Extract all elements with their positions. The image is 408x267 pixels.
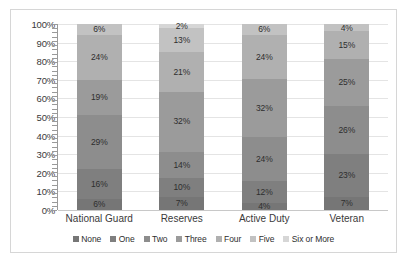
bar-segment[interactable]: 32% [159, 92, 204, 152]
y-axis-minor-tick [52, 45, 57, 46]
bar-segment-label: 6% [93, 25, 105, 34]
chart-legend: NoneOneTwoThreeFourFiveSix or More [11, 234, 396, 244]
bar-segment-label: 6% [93, 200, 105, 209]
bar-segment-label: 10% [173, 183, 190, 192]
bar-segment-label: 24% [256, 53, 273, 62]
bar-segment-label: 14% [173, 161, 190, 170]
legend-swatch-icon [110, 236, 116, 242]
y-axis-minor-tick [52, 189, 57, 190]
x-tick-label: National Guard [59, 213, 140, 224]
bar-segment[interactable]: 4% [324, 24, 369, 31]
y-axis-minor-tick [52, 202, 57, 203]
legend-item[interactable]: Five [250, 234, 274, 244]
bar-segment-label: 15% [338, 41, 355, 50]
y-axis-minor-tick [52, 83, 57, 84]
legend-swatch-icon [73, 236, 79, 242]
bar-segment[interactable]: 7% [159, 197, 204, 210]
y-axis-minor-tick [52, 87, 57, 88]
y-axis-minor-tick [52, 66, 57, 67]
x-tick-label: Veteran [306, 213, 387, 224]
y-axis-minor-tick [52, 54, 57, 55]
y-axis-minor-tick [52, 176, 57, 177]
y-axis-minor-tick [52, 121, 57, 122]
legend-label: Six or More [292, 234, 334, 244]
bar-segment[interactable]: 24% [242, 137, 287, 181]
bar-series-layer: 6%16%29%19%24%6%7%10%14%32%21%13%2%4%12%… [58, 24, 388, 210]
bar-stack[interactable]: 7%10%14%32%21%13%2% [159, 24, 204, 210]
legend-item[interactable]: One [110, 234, 134, 244]
bar-segment[interactable]: 2% [159, 24, 204, 28]
legend-item[interactable]: Two [144, 234, 168, 244]
y-axis-minor-tick [52, 206, 57, 207]
bar-segment[interactable]: 13% [159, 28, 204, 52]
bar-segment[interactable]: 7% [324, 197, 369, 210]
bar-segment[interactable]: 6% [77, 24, 122, 35]
bar-segment-label: 26% [338, 126, 355, 135]
y-axis-minor-tick [52, 75, 57, 76]
bar-segment[interactable]: 14% [159, 152, 204, 178]
bar-column[interactable]: 6%16%29%19%24%6% [59, 24, 140, 210]
bar-segment[interactable]: 32% [242, 79, 287, 137]
y-axis-minor-tick [52, 37, 57, 38]
bar-column[interactable]: 4%12%24%32%24%6% [224, 24, 305, 210]
bar-segment[interactable]: 23% [324, 154, 369, 197]
bar-segment[interactable]: 25% [324, 59, 369, 106]
gridline [58, 210, 388, 211]
bar-segment-label: 2% [176, 22, 188, 31]
y-axis-minor-tick [52, 197, 57, 198]
legend-item[interactable]: Three [176, 234, 206, 244]
bar-segment[interactable]: 4% [242, 203, 287, 210]
y-axis-minor-tick [52, 71, 57, 72]
y-axis-minor-tick [52, 155, 57, 156]
legend-swatch-icon [250, 236, 256, 242]
bar-stack[interactable]: 4%12%24%32%24%6% [242, 24, 287, 210]
bar-segment-label: 25% [338, 78, 355, 87]
legend-swatch-icon [176, 236, 182, 242]
bar-segment[interactable]: 16% [77, 169, 122, 199]
bar-segment[interactable]: 29% [77, 115, 122, 169]
x-tick-label: Active Duty [224, 213, 305, 224]
bar-segment-label: 7% [176, 199, 188, 208]
y-axis-minor-tick [52, 62, 57, 63]
plot-area: 6%16%29%19%24%6%7%10%14%32%21%13%2%4%12%… [58, 24, 388, 210]
bar-segment[interactable]: 26% [324, 106, 369, 154]
bar-segment-label: 23% [338, 171, 355, 180]
y-axis-minor-tick [52, 79, 57, 80]
bar-column[interactable]: 7%10%14%32%21%13%2% [141, 24, 222, 210]
bar-segment[interactable]: 21% [159, 52, 204, 91]
bar-segment[interactable]: 15% [324, 31, 369, 59]
bar-segment[interactable]: 10% [159, 178, 204, 197]
y-axis-minor-tick [52, 49, 57, 50]
bar-segment[interactable]: 19% [77, 80, 122, 115]
bar-stack[interactable]: 7%23%26%25%15%4% [324, 24, 369, 210]
y-axis-minor-tick [52, 32, 57, 33]
legend-item[interactable]: Four [216, 234, 242, 244]
bar-segment-label: 6% [258, 25, 270, 34]
legend-label: Five [259, 234, 275, 244]
y-tick-label: 90% [37, 37, 55, 48]
y-axis-minor-tick [52, 28, 57, 29]
bar-segment[interactable]: 24% [242, 35, 287, 79]
bar-segment[interactable]: 24% [77, 35, 122, 80]
legend-label: Three [185, 234, 207, 244]
y-axis-minor-tick [52, 113, 57, 114]
y-axis-minor-tick [52, 125, 57, 126]
bar-stack[interactable]: 6%16%29%19%24%6% [77, 24, 122, 210]
legend-item[interactable]: None [73, 234, 101, 244]
bar-segment[interactable]: 12% [242, 181, 287, 203]
legend-item[interactable]: Six or More [283, 234, 334, 244]
bar-segment-label: 24% [256, 155, 273, 164]
bar-segment[interactable]: 6% [242, 24, 287, 35]
bar-column[interactable]: 7%23%26%25%15%4% [306, 24, 387, 210]
y-axis-minor-tick [52, 159, 57, 160]
bar-segment-label: 4% [341, 24, 353, 33]
bar-segment-label: 29% [91, 138, 108, 147]
bar-segment[interactable]: 6% [77, 199, 122, 210]
legend-label: One [119, 234, 135, 244]
y-axis-minor-tick [52, 147, 57, 148]
y-axis-minor-tick [52, 151, 57, 152]
y-axis-minor-tick [52, 109, 57, 110]
y-axis-minor-tick [52, 58, 57, 59]
y-axis-minor-tick [52, 117, 57, 118]
y-axis-minor-tick [52, 24, 57, 25]
